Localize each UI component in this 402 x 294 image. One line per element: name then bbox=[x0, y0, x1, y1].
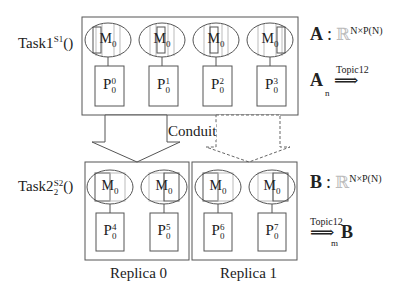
p-label-bottom-1: P50 bbox=[150, 222, 178, 241]
p-label-top-2: P20 bbox=[203, 76, 232, 95]
b-type-annotation: B : ℝN×P(N) bbox=[310, 172, 381, 193]
p-label-bottom-0: P40 bbox=[96, 222, 124, 241]
dashed-conduit-arrow bbox=[206, 115, 290, 162]
a-type-annotation: A : ℝN×P(N) bbox=[310, 24, 382, 45]
replica-1-label: Replica 1 bbox=[220, 265, 277, 282]
m-label-top-0: M0 bbox=[96, 31, 120, 49]
task2-label: Task2S22() bbox=[18, 178, 73, 197]
conduit-label: Conduit bbox=[168, 123, 216, 140]
p-label-bottom-2: P60 bbox=[204, 222, 232, 241]
p-label-bottom-3: P70 bbox=[258, 222, 286, 241]
task1-label: Task1S1() bbox=[18, 34, 73, 52]
p-label-top-1: P10 bbox=[149, 76, 178, 95]
m-label-bottom-2: M0 bbox=[206, 178, 230, 196]
m-label-top-3: M0 bbox=[258, 31, 282, 49]
m-label-top-2: M0 bbox=[204, 31, 228, 49]
m-label-bottom-0: M0 bbox=[98, 178, 122, 196]
p-label-top-3: P30 bbox=[257, 76, 286, 95]
solid-conduit-arrow bbox=[92, 115, 180, 162]
b-subscribe-annotation: Topic12 ⟹ m B bbox=[310, 222, 370, 252]
replica-1-container bbox=[192, 162, 297, 260]
m-label-bottom-3: M0 bbox=[260, 178, 284, 196]
replica-0-container bbox=[85, 162, 189, 260]
m-label-bottom-1: M0 bbox=[152, 178, 176, 196]
p-label-top-0: P00 bbox=[95, 76, 124, 95]
replica-0-label: Replica 0 bbox=[110, 265, 167, 282]
a-publish-annotation: A n Topic12 ⟹ bbox=[310, 70, 323, 98]
m-label-top-1: M0 bbox=[150, 31, 174, 49]
